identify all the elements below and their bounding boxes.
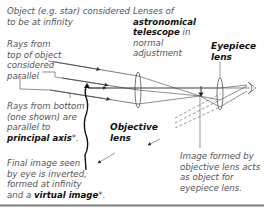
eyepiece-label: Eyepiece lens [211, 41, 256, 62]
final-image-label: Final image seen by eye is inverted, for… [7, 158, 105, 200]
intermediate-image-label: Image formed by objective lens acts as o… [180, 151, 260, 193]
rays-top-label: Rays from top of object considered paral… [7, 39, 61, 81]
lenses-label: Lenses of astronomical telescope in norm… [133, 6, 196, 59]
rays-bottom-label: Rays from bottom (one shown) are paralle… [7, 101, 85, 143]
bottom-divider [0, 204, 264, 207]
object-label: Object (e.g. star) considered to be at i… [7, 6, 130, 27]
objective-label: Objective lens [110, 122, 158, 143]
